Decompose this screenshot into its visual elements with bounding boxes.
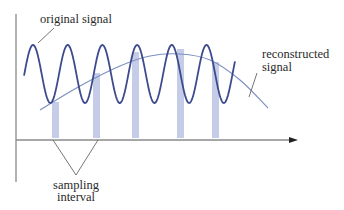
- reconstructed-signal-leader-line: [249, 73, 257, 97]
- sample-bar: [52, 102, 59, 138]
- sampling-interval-label-line2: interval: [57, 190, 96, 204]
- reconstructed-signal-label-line2: signal: [262, 60, 292, 74]
- axis-arrow-icon: [289, 137, 298, 143]
- original-signal-wave: [24, 45, 235, 103]
- sampling-diagram: original signal reconstructed signal sam…: [0, 0, 344, 210]
- sample-bar: [132, 52, 139, 138]
- sample-bar: [93, 73, 100, 138]
- original-signal-leader-line: [38, 28, 54, 43]
- original-signal-label: original signal: [40, 12, 112, 26]
- reconstructed-signal-label-line1: reconstructed: [262, 47, 330, 61]
- sampling-interval-bracket: [53, 140, 98, 175]
